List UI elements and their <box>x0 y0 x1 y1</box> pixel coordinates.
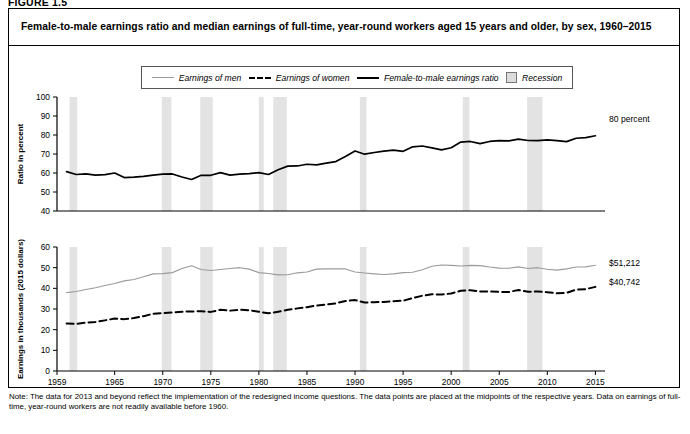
figure-page: FIGURE 1.5 Female-to-male earnings ratio… <box>0 0 690 434</box>
y-tick-label: 20 <box>41 325 51 335</box>
y-tick-label: 50 <box>41 187 51 197</box>
x-tick-label: 2010 <box>538 377 557 387</box>
annotation-ratio-end: 80 percent <box>609 114 650 124</box>
figure-frame: Female-to-male earnings ratio and median… <box>8 8 680 388</box>
x-tick-label: 1965 <box>105 377 124 387</box>
annotation-women-end: $40,742 <box>609 277 640 287</box>
recession-band <box>259 247 264 371</box>
recession-band <box>162 247 172 371</box>
recession-band <box>463 97 470 211</box>
annotation-men-end: $51,212 <box>609 258 640 268</box>
recession-band <box>360 247 367 371</box>
recession-band <box>273 97 286 211</box>
figure-label: FIGURE 1.5 <box>8 0 67 8</box>
figure-note: Note: The data for 2013 and beyond refle… <box>9 392 681 412</box>
x-tick-label: 2005 <box>490 377 509 387</box>
x-tick-label: 1995 <box>394 377 413 387</box>
y-tick-label: 40 <box>41 283 51 293</box>
chart-svg: 405060708090100Ratio in percent010203040… <box>9 9 681 389</box>
recession-band <box>527 247 542 371</box>
x-tick-label: 1975 <box>202 377 221 387</box>
y-tick-label: 60 <box>41 168 51 178</box>
recession-band <box>69 247 77 371</box>
x-tick-label: 1959 <box>48 377 67 387</box>
y-tick-label: 70 <box>41 149 51 159</box>
y-tick-label: 50 <box>41 263 51 273</box>
y-tick-label: 60 <box>41 242 51 252</box>
recession-band <box>273 247 286 371</box>
recession-band <box>527 97 542 211</box>
y-tick-label: 0 <box>45 366 50 376</box>
recession-band <box>69 97 77 211</box>
y-tick-label: 90 <box>41 111 51 121</box>
x-tick-label: 1990 <box>346 377 365 387</box>
x-tick-label: 1970 <box>153 377 172 387</box>
series-line <box>67 136 596 180</box>
y-tick-label: 100 <box>36 92 50 102</box>
recession-band <box>162 97 172 211</box>
y-tick-label: 40 <box>41 206 51 216</box>
recession-band <box>200 247 212 371</box>
y-tick-label: 10 <box>41 345 51 355</box>
series-line <box>67 287 596 324</box>
y-axis-label: Earnings in thousands (2015 dollars) <box>16 239 25 379</box>
x-tick-label: 2015 <box>586 377 605 387</box>
x-tick-label: 1980 <box>250 377 269 387</box>
chart-plot-area: 405060708090100Ratio in percent010203040… <box>9 9 681 389</box>
x-tick-label: 2000 <box>442 377 461 387</box>
y-tick-label: 30 <box>41 304 51 314</box>
y-tick-label: 80 <box>41 130 51 140</box>
series-line <box>67 265 596 293</box>
y-axis-label: Ratio in percent <box>16 123 25 184</box>
recession-band <box>259 97 264 211</box>
recession-band <box>200 97 212 211</box>
x-tick-label: 1985 <box>298 377 317 387</box>
